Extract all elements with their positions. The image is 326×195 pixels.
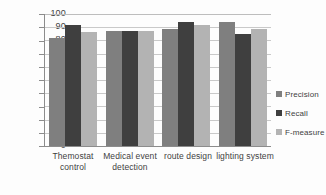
legend-swatch-precision-icon xyxy=(276,91,282,97)
bar-precision-3 xyxy=(162,29,178,146)
bar-group-route-design xyxy=(158,14,215,146)
x-label-lighting-system: lighting system xyxy=(207,151,283,162)
bar-recall-2 xyxy=(122,31,138,146)
plot-area xyxy=(44,14,271,147)
legend-item-recall[interactable]: Recall xyxy=(276,105,326,121)
legend: Precision Recall F-measure xyxy=(276,86,326,143)
bar-fmeasure-4 xyxy=(251,29,267,146)
x-label-line1: lighting system xyxy=(207,151,283,162)
bar-precision-4 xyxy=(219,22,235,146)
x-label-line2: detection xyxy=(94,162,166,173)
bar-precision-1 xyxy=(49,38,65,146)
bar-fmeasure-1 xyxy=(81,32,97,146)
bar-group-lighting-system xyxy=(215,14,272,146)
legend-swatch-recall-icon xyxy=(276,110,282,116)
bar-group-themostat-control xyxy=(45,14,102,146)
bar-group-medical-event-detection xyxy=(102,14,159,146)
bar-fmeasure-3 xyxy=(194,25,210,146)
bar-recall-1 xyxy=(65,25,81,146)
bar-recall-3 xyxy=(178,22,194,146)
legend-item-precision[interactable]: Precision xyxy=(276,86,326,102)
bar-fmeasure-2 xyxy=(138,31,154,146)
legend-label-recall: Recall xyxy=(285,109,308,118)
legend-item-fmeasure[interactable]: F-measure xyxy=(276,124,326,140)
bar-precision-2 xyxy=(106,31,122,146)
bar-chart: 100 90 80 70 60 50 40 30 20 10 0 xyxy=(0,0,326,195)
bar-recall-4 xyxy=(235,34,251,146)
legend-swatch-fmeasure-icon xyxy=(276,129,282,135)
legend-label-precision: Precision xyxy=(285,90,319,99)
legend-label-fmeasure: F-measure xyxy=(285,128,325,137)
